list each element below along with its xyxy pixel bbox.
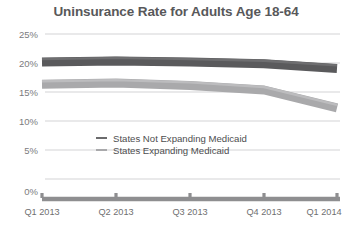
gridlines	[45, 34, 340, 179]
legend-item-states-not-expanding-medicaid: States Not Expanding Medicaid	[96, 132, 247, 144]
x-axis-tick-label: Q3 2013	[155, 207, 225, 217]
plot-area	[0, 0, 352, 230]
legend-item-states-expanding-medicaid: States Expanding Medicaid	[96, 144, 247, 156]
legend-dash-icon	[96, 137, 107, 139]
series-states-expanding-medicaid	[42, 80, 337, 108]
x-axis	[42, 193, 340, 199]
series-states-not-expanding-medicaid	[42, 58, 337, 69]
chart-legend: States Not Expanding Medicaid States Exp…	[96, 132, 247, 156]
x-axis-tick-label: Q1 2013	[7, 207, 77, 217]
legend-dash-icon	[96, 149, 107, 151]
legend-item-label: States Not Expanding Medicaid	[113, 133, 247, 144]
chart-container: Uninsurance Rate for Adults Age 18-64 25…	[0, 0, 352, 230]
legend-item-label: States Expanding Medicaid	[113, 145, 229, 156]
x-axis-tick-label: Q1 2014	[289, 207, 352, 217]
x-axis-tick-label: Q2 2013	[81, 207, 151, 217]
